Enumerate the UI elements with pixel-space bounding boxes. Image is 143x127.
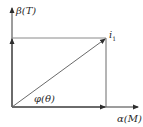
- x-axis-label: α(M): [117, 114, 142, 124]
- angle-label: φ(θ): [34, 94, 55, 104]
- vector-diagram: [0, 0, 143, 127]
- vector-label: i1: [109, 30, 116, 42]
- vector-label-subscript: 1: [112, 35, 116, 42]
- y-axis-label: β(T): [16, 6, 36, 16]
- vector-i1: [12, 39, 105, 107]
